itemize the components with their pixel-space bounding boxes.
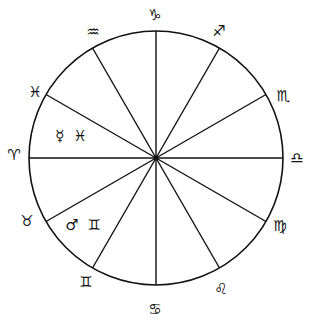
house-spoke [93,48,157,158]
aquarius-icon: ♒ [86,25,99,40]
house-spoke [93,158,157,268]
gemini-icon: ♊ [79,275,92,290]
house-spoke [156,158,220,268]
leo-icon: ♌ [214,282,227,297]
capricorn-icon: ♑ [148,8,161,23]
astrology-wheel [0,0,310,325]
pisces-icon: ♓ [28,85,41,100]
house-spoke [156,48,220,158]
virgo-icon: ♍ [273,219,286,234]
scorpio-icon: ♏ [276,89,289,104]
taurus-icon: ♉ [20,214,33,229]
center-hub [154,156,158,160]
mercury-in-pisces-label: ☿ ♓ [55,129,88,144]
aries-icon: ♈ [7,148,20,163]
sagittarius-icon: ♐ [212,24,225,39]
house-spoke [46,158,156,222]
house-spoke [156,95,266,159]
libra-icon: ♎ [290,151,303,166]
house-spoke [156,158,266,222]
cancer-icon: ♋ [148,302,161,317]
mars-in-gemini-label: ♂ ♊ [65,218,103,233]
